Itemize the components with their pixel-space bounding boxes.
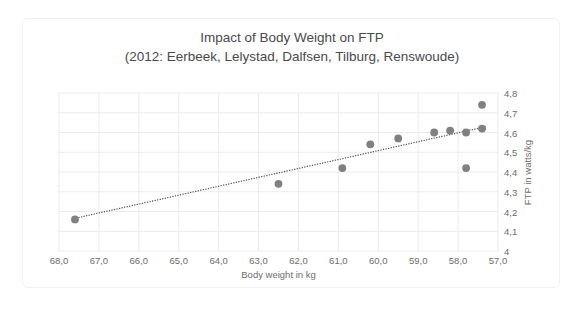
- plot-area: [59, 93, 498, 251]
- x-axis-tick-label: 63,0: [239, 255, 279, 266]
- x-axis-title: Body weight in kg: [59, 269, 498, 280]
- x-axis-tick-label: 61,0: [318, 255, 358, 266]
- data-point: [462, 129, 470, 137]
- chart-title-block: Impact of Body Weight on FTP (2012: Eerb…: [23, 28, 561, 66]
- y-axis-title-text: FTP in watts/kg: [523, 139, 534, 204]
- x-axis-tick-label: 66,0: [119, 255, 159, 266]
- data-point: [71, 216, 79, 224]
- x-axis-tick-label: 62,0: [278, 255, 318, 266]
- data-point: [430, 129, 438, 137]
- data-point: [394, 135, 402, 143]
- x-axis-tick-label: 60,0: [358, 255, 398, 266]
- x-axis-tick-label: 68,0: [39, 255, 79, 266]
- data-point: [338, 164, 346, 172]
- x-axis-tick-label: 57,0: [478, 255, 518, 266]
- x-axis-tick-label: 58,0: [438, 255, 478, 266]
- chart-subtitle: (2012: Eerbeek, Lelystad, Dalfsen, Tilbu…: [23, 47, 561, 66]
- data-point: [478, 125, 486, 133]
- data-point: [462, 164, 470, 172]
- x-axis-tick-label: 65,0: [159, 255, 199, 266]
- chart-card: Impact of Body Weight on FTP (2012: Eerb…: [22, 18, 560, 288]
- data-point: [275, 180, 283, 188]
- x-axis-tick-label: 64,0: [199, 255, 239, 266]
- data-point: [446, 127, 454, 135]
- data-point: [478, 101, 486, 109]
- data-point: [366, 140, 374, 148]
- chart-series: [59, 93, 498, 251]
- page-title: Impact of Body Weight on FTP: [23, 28, 561, 47]
- x-axis-tick-label: 59,0: [398, 255, 438, 266]
- y-axis-title: FTP in watts/kg: [521, 93, 535, 251]
- x-axis-tick-label: 67,0: [79, 255, 119, 266]
